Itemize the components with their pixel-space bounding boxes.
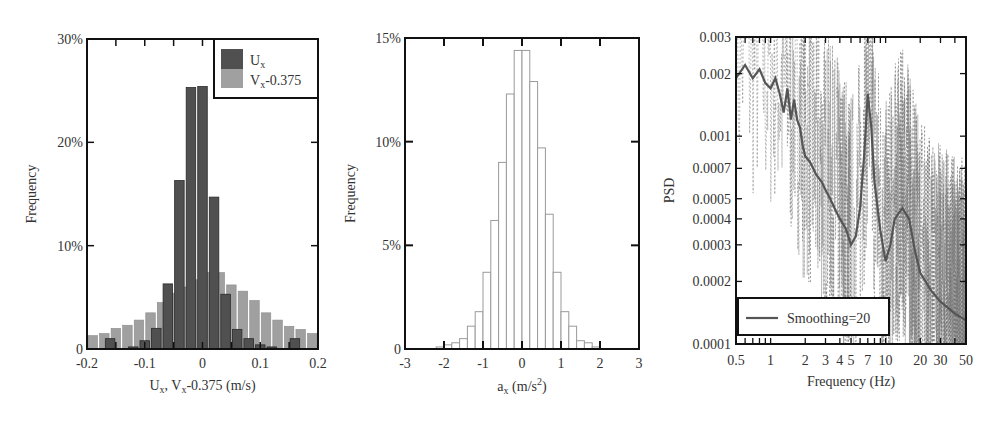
x-tick-label: -0.2 xyxy=(76,356,98,371)
x-axis-label: ax (m/s2) xyxy=(497,376,547,396)
histogram-bar xyxy=(522,50,530,349)
y-tick-label: 5% xyxy=(382,238,401,253)
y-tick-label: 0.0001 xyxy=(693,337,732,352)
bar-ux xyxy=(175,181,185,349)
bar-ux xyxy=(244,339,254,349)
bar-ux xyxy=(163,284,173,349)
bar-vx xyxy=(88,336,98,349)
x-tick-label: -0.1 xyxy=(134,356,156,371)
x-tick-label: 50 xyxy=(959,353,973,368)
bar-ux xyxy=(232,329,242,349)
acceleration-histogram-chart: -3-2-1012305%10%15%Frequencyax (m/s2) xyxy=(330,0,660,421)
legend-label: Vx-0.375 xyxy=(250,73,301,90)
y-tick-label: 10% xyxy=(375,135,401,150)
y-tick-label: 10% xyxy=(57,239,83,254)
y-axis-label: Frequency xyxy=(24,164,39,223)
y-tick-label: 0.002 xyxy=(700,67,732,82)
bar-vx xyxy=(261,313,271,349)
y-tick-label: 0 xyxy=(394,342,401,357)
legend-swatch-ux xyxy=(221,49,243,69)
x-tick-label: 0.2 xyxy=(309,356,327,371)
x-tick-label: 7 xyxy=(864,353,871,368)
x-tick-label: 3 xyxy=(636,356,643,371)
histogram-acceleration-panel: -3-2-1012305%10%15%Frequencyax (m/s2) xyxy=(330,0,660,421)
histogram-bar xyxy=(491,220,499,349)
y-tick-label: 0.001 xyxy=(700,129,732,144)
bar-ux xyxy=(221,294,231,349)
histogram-bar xyxy=(569,326,577,349)
y-tick-label: 0.003 xyxy=(700,30,732,45)
histogram-bar xyxy=(538,148,546,349)
histogram-bar xyxy=(460,339,468,349)
histogram-bar xyxy=(514,50,522,349)
histogram-velocity-panel: -0.2-0.100.10.2010%20%30%FrequencyUx, Vx… xyxy=(0,0,330,421)
x-tick-label: 0 xyxy=(199,356,206,371)
y-tick-label: 0.0007 xyxy=(693,161,732,176)
histogram-bar xyxy=(530,82,538,349)
histogram-bar xyxy=(553,272,561,349)
x-axis-label: Frequency (Hz) xyxy=(807,374,896,390)
x-tick-label: 3 xyxy=(822,353,829,368)
y-tick-label: 20% xyxy=(57,135,83,150)
legend-swatch-vx xyxy=(221,69,243,88)
histogram-bar xyxy=(561,312,569,349)
x-tick-label: 2 xyxy=(597,356,604,371)
x-tick-label: 30 xyxy=(933,353,947,368)
legend-label: Smoothing=20 xyxy=(787,311,870,326)
x-tick-label: 1 xyxy=(767,353,774,368)
bar-ux xyxy=(209,197,219,349)
velocity-histogram-chart: -0.2-0.100.10.2010%20%30%FrequencyUx, Vx… xyxy=(0,0,330,421)
psd-panel: 0.5123457102030500.00010.00020.00030.000… xyxy=(660,0,1002,421)
x-tick-label: 0 xyxy=(519,356,526,371)
histogram-bar xyxy=(545,214,553,349)
y-tick-label: 0.0005 xyxy=(693,192,732,207)
x-tick-label: 0.1 xyxy=(252,356,270,371)
x-tick-label: -2 xyxy=(438,356,450,371)
x-axis-label: Ux, Vx-0.375 (m/s) xyxy=(149,378,256,395)
y-axis-label: Frequency xyxy=(343,164,358,223)
legend: Smoothing=20 xyxy=(738,298,889,335)
bar-vx xyxy=(123,325,133,349)
y-tick-label: 0.0002 xyxy=(693,274,732,289)
histogram-bar xyxy=(499,162,507,349)
bar-vx xyxy=(273,320,283,349)
y-tick-label: 0.0003 xyxy=(693,238,732,253)
legend: UxVx-0.375 xyxy=(214,39,318,98)
bar-vx xyxy=(307,334,317,350)
y-tick-label: 0 xyxy=(76,342,83,357)
histogram-bar xyxy=(506,94,514,349)
x-tick-label: 5 xyxy=(848,353,855,368)
x-tick-label: 1 xyxy=(558,356,565,371)
bar-ux xyxy=(290,339,300,349)
bar-ux xyxy=(152,328,162,349)
y-tick-label: 0.0004 xyxy=(693,212,732,227)
bar-ux xyxy=(186,88,196,349)
histogram-bar xyxy=(475,312,483,349)
x-tick-label: -1 xyxy=(477,356,489,371)
bar-ux xyxy=(105,339,115,349)
psd-chart: 0.5123457102030500.00010.00020.00030.000… xyxy=(660,0,1002,421)
x-tick-label: 20 xyxy=(913,353,927,368)
x-tick-label: 10 xyxy=(879,353,893,368)
histogram-bar xyxy=(577,341,585,349)
x-tick-label: 0.5 xyxy=(727,353,745,368)
x-tick-label: -3 xyxy=(399,356,411,371)
histogram-bar xyxy=(483,272,491,349)
y-tick-label: 15% xyxy=(375,31,401,46)
x-tick-label: 2 xyxy=(802,353,809,368)
y-axis-label: PSD xyxy=(662,178,677,204)
histogram-bar xyxy=(467,326,475,349)
x-tick-label: 4 xyxy=(836,353,843,368)
bar-ux xyxy=(198,87,208,349)
y-tick-label: 30% xyxy=(57,32,83,47)
